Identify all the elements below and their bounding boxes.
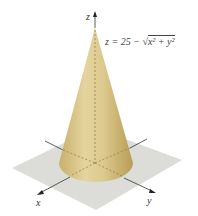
cone-diagram xyxy=(0,0,198,216)
y-arrow-icon xyxy=(149,189,156,193)
equation-lhs: z = 25 − xyxy=(105,36,142,47)
equation-radicand: x² + y² xyxy=(148,35,175,47)
cone-equation: z = 25 − √x² + y² xyxy=(105,36,175,47)
z-arrow-icon xyxy=(93,11,97,17)
cone-surface xyxy=(59,28,133,182)
z-axis-label: z xyxy=(86,11,90,22)
x-axis-label: x xyxy=(36,197,40,208)
x-arrow-icon xyxy=(37,190,44,195)
y-axis-label: y xyxy=(147,195,151,206)
